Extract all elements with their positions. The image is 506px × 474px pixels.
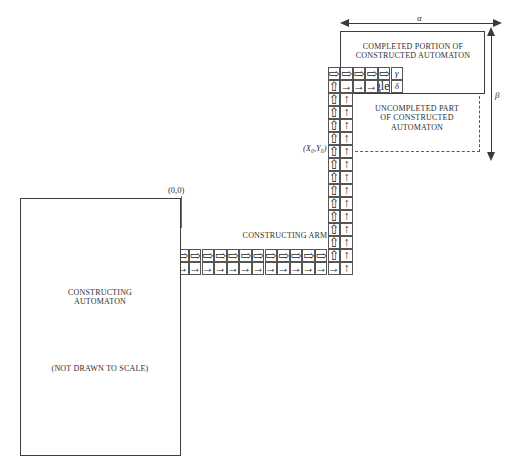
tape-cell-gamma: γ: [391, 67, 404, 80]
tape-cell-arm-bottom-11: →: [265, 262, 278, 275]
beta-label: β: [495, 90, 499, 100]
tape-cell-glyph: ⇨: [265, 249, 276, 262]
not-drawn-to-scale-note: (NOT DRAWN TO SCALE): [25, 364, 175, 373]
tape-cell-vert-left-9: ⇧: [328, 210, 341, 223]
completed-portion-line2: CONSTRUCTED AUTOMATON: [345, 51, 481, 60]
tape-cell-glyph: ↑: [343, 158, 349, 170]
tape-cell-glyph: ⇧: [328, 184, 339, 197]
tape-cell-glyph: →: [290, 262, 302, 274]
origin-label: (0,0): [168, 185, 184, 195]
tape-cell-glyph: →: [214, 262, 226, 274]
tape-cell-glyph: single_up: [378, 80, 391, 92]
tape-cell-arm-bottom-12: →: [277, 262, 290, 275]
alpha-label: α: [417, 13, 422, 23]
tape-cell-head-bottom-1: →: [340, 80, 353, 93]
tape-cell-arm-bottom-13: →: [290, 262, 303, 275]
tape-cell-glyph: ↑: [343, 119, 349, 131]
tape-cell-vert-left-3: ⇧: [328, 132, 341, 145]
uncompleted-part-label: UNCOMPLETED PART OF CONSTRUCTED AUTOMATO…: [358, 104, 476, 132]
tape-cell-vert-left-4: ⇧: [328, 145, 341, 158]
tape-cell-head-bottom-4: single_up: [378, 80, 391, 93]
tape-cell-glyph: →: [303, 262, 315, 274]
tape-cell-arm-top-8: ⇨: [227, 249, 240, 262]
tape-cell-glyph: ⇨: [366, 67, 377, 80]
tape-cell-delta: δ: [391, 80, 404, 93]
tape-cell-vert-right-8: ↑: [340, 197, 353, 210]
tape-cell-glyph: ↑: [343, 106, 349, 118]
tape-cell-glyph: ⇧: [328, 171, 339, 184]
tape-cell-glyph: ↑: [343, 197, 349, 209]
tape-cell-glyph: ⇧: [328, 249, 339, 262]
tape-cell-glyph: ⇨: [228, 249, 239, 262]
coordinate-label: (X₀,Y₀): [303, 143, 327, 153]
tape-cell-glyph: ↑: [343, 132, 349, 144]
tape-cell-vert-right-4: ↑: [340, 145, 353, 158]
tape-cell-glyph: ⇧: [328, 210, 339, 223]
tape-cell-head-top-0: ⇨: [328, 67, 341, 80]
tape-cell-glyph: →: [265, 262, 277, 274]
constructing-automaton-line2: AUTOMATON: [25, 297, 175, 306]
completed-portion-line1: COMPLETED PORTION OF: [345, 42, 481, 51]
constructing-automaton-label: CONSTRUCTING AUTOMATON: [25, 288, 175, 307]
beta-top-arrowhead: [485, 27, 497, 39]
tape-cell-arm-top-14: ⇨: [302, 249, 315, 262]
tape-cell-head-bottom-2: →: [353, 80, 366, 93]
tape-cell-glyph: ↑: [343, 184, 349, 196]
tape-cell-vert-right-7: ↑: [340, 184, 353, 197]
tape-cell-glyph: ⇨: [291, 249, 302, 262]
tape-cell-arm-top-9: ⇨: [239, 249, 252, 262]
tape-cell-glyph: ⇧: [328, 197, 339, 210]
tape-cell-glyph: ⇧: [328, 80, 339, 93]
tape-cell-glyph: γ: [395, 68, 399, 77]
tape-cell-glyph: ⇧: [328, 132, 339, 145]
tape-cell-glyph: →: [315, 262, 327, 274]
tape-cell-arm-bottom-15: →: [315, 262, 328, 275]
tape-cell-glyph: ⇨: [215, 249, 226, 262]
tape-cell-glyph: ⇧: [328, 93, 339, 106]
tape-cell-arm-top-5: ⇨: [189, 249, 202, 262]
uncompleted-part-line2: OF CONSTRUCTED: [358, 113, 476, 122]
alpha-left-arrowhead: [340, 17, 352, 29]
tape-cell-vert-right-5: ↑: [340, 158, 353, 171]
uncompleted-part-line1: UNCOMPLETED PART: [358, 104, 476, 113]
tape-cell-glyph: ⇨: [354, 67, 365, 80]
tape-cell-glyph: ⇨: [240, 249, 251, 262]
tape-cell-glyph: →: [353, 80, 365, 92]
alpha-dimension-line: [346, 23, 498, 24]
tape-cell-arm-top-6: ⇨: [202, 249, 215, 262]
tape-cell-glyph: δ: [395, 81, 399, 90]
tape-cell-glyph: ↑: [343, 210, 349, 222]
diagram-canvas: α β COMPLETED PORTION OF CONSTRUCTED AUT…: [0, 0, 506, 474]
tape-cell-arm-corner-bottom-left: →: [328, 262, 341, 275]
tape-cell-glyph: →: [227, 262, 239, 274]
tape-cell-arm-top-15: ⇨: [315, 249, 328, 262]
tape-cell-glyph: ⇨: [253, 249, 264, 262]
tape-cell-head-top-2: ⇨: [353, 67, 366, 80]
completed-portion-label: COMPLETED PORTION OF CONSTRUCTED AUTOMAT…: [345, 42, 481, 61]
tape-cell-vert-right-1: ↑: [340, 106, 353, 119]
tape-cell-glyph: ↑: [343, 93, 349, 105]
tape-cell-arm-bottom-9: →: [239, 262, 252, 275]
tape-cell-glyph: ⇨: [190, 249, 201, 262]
tape-cell-arm-corner-bottom-right: ↑: [340, 262, 353, 275]
tape-cell-head-top-3: ⇨: [365, 67, 378, 80]
tape-cell-arm-top-10: ⇨: [252, 249, 265, 262]
tape-cell-glyph: ⇨: [379, 67, 390, 80]
tape-cell-arm-top-7: ⇨: [214, 249, 227, 262]
tape-cell-glyph: ↑: [343, 249, 349, 261]
beta-dimension-line: [491, 34, 492, 156]
tape-cell-arm-bottom-5: →: [189, 262, 202, 275]
tape-cell-arm-bottom-7: →: [214, 262, 227, 275]
tape-cell-vert-right-3: ↑: [340, 132, 353, 145]
tape-cell-glyph: →: [252, 262, 264, 274]
tape-cell-vert-right-6: ↑: [340, 171, 353, 184]
tape-cell-arm-top-11: ⇨: [265, 249, 278, 262]
tape-cell-vert-left-5: ⇧: [328, 158, 341, 171]
tape-cell-glyph: ⇧: [328, 119, 339, 132]
tape-cell-vert-left-2: ⇧: [328, 119, 341, 132]
tape-cell-glyph: →: [189, 262, 201, 274]
tape-cell-glyph: →: [328, 262, 340, 274]
tape-cell-vert-left-6: ⇧: [328, 171, 341, 184]
tape-cell-glyph: ⇨: [303, 249, 314, 262]
tape-cell-vert-right-0: ↑: [340, 93, 353, 106]
